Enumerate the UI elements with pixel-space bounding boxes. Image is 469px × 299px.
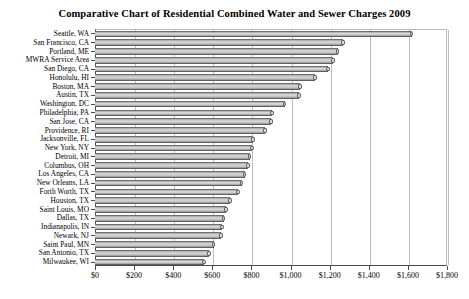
bar-row[interactable] [95,178,447,187]
bar-cap [269,119,272,124]
category-tick [91,262,95,263]
bar-cap [207,251,210,256]
bar-row[interactable] [95,213,447,222]
bar-row[interactable] [95,134,447,143]
bar-cap [410,32,413,37]
category-tick [91,235,95,236]
value-tick [447,266,448,270]
bar-row[interactable] [95,152,447,161]
bar-cap [202,260,205,265]
bar-cap [251,137,254,142]
bar-cap [220,225,223,230]
bar[interactable] [95,145,252,152]
bar[interactable] [95,224,222,231]
bar[interactable] [95,241,214,248]
bar-row[interactable] [95,64,447,73]
bar-row[interactable] [95,99,447,108]
bar[interactable] [95,39,343,46]
bar-row[interactable] [95,240,447,249]
category-tick [91,244,95,245]
bar[interactable] [95,180,242,187]
value-tick-label: $1,800 [436,271,458,280]
category-axis-labels: Seattle, WASan Francisco, CAPortland, ME… [0,29,92,266]
category-tick [91,218,95,219]
bar-cap [212,242,215,247]
category-tick [91,42,95,43]
bar-row[interactable] [95,143,447,152]
bar-row[interactable] [95,90,447,99]
category-tick [91,104,95,105]
bar-row[interactable] [95,82,447,91]
bar[interactable] [95,162,248,169]
bar[interactable] [95,66,328,73]
bar[interactable] [95,153,250,160]
bar[interactable] [95,74,315,81]
bar[interactable] [95,206,226,213]
bar-row[interactable] [95,55,447,64]
bar[interactable] [95,250,209,257]
bar-row[interactable] [95,257,447,266]
category-tick [91,183,95,184]
bar[interactable] [95,31,412,38]
bar[interactable] [95,110,272,117]
bar-row[interactable] [95,117,447,126]
bar-cap [336,49,339,54]
bar[interactable] [95,127,265,134]
bar[interactable] [95,83,300,90]
value-tick [369,266,370,270]
bar[interactable] [95,215,224,222]
category-label: Milwaukee, WI [0,257,89,267]
category-tick [91,130,95,131]
category-tick [91,148,95,149]
bar-row[interactable] [95,73,447,82]
bar-row[interactable] [95,187,447,196]
bar[interactable] [95,48,338,55]
bar[interactable] [95,118,271,125]
bar-row[interactable] [95,38,447,47]
value-tick-label: $1,000 [280,271,302,280]
bar-row[interactable] [95,196,447,205]
bar-row[interactable] [95,205,447,214]
bar-row[interactable] [95,47,447,56]
category-tick [91,191,95,192]
bar[interactable] [95,57,333,64]
value-tick-label: $800 [243,271,259,280]
value-tick [291,266,292,270]
value-tick-label: $1,200 [319,271,341,280]
gridline [448,30,449,265]
bar-cap [228,198,231,203]
category-tick [91,165,95,166]
bar-cap [263,128,266,133]
bar-row[interactable] [95,126,447,135]
bar-row[interactable] [95,222,447,231]
value-tick [173,266,174,270]
value-tick [95,266,96,270]
bar[interactable] [95,232,221,239]
bar-row[interactable] [95,161,447,170]
category-tick [91,174,95,175]
bar[interactable] [95,136,253,143]
bar-row[interactable] [95,108,447,117]
bar-cap [219,233,222,238]
bar[interactable] [95,92,299,99]
bar-row[interactable] [95,169,447,178]
bar[interactable] [95,259,204,266]
bar[interactable] [95,101,285,108]
category-tick [91,121,95,122]
bar-cap [270,111,273,116]
bar[interactable] [95,171,245,178]
value-tick [408,266,409,270]
value-tick-label: $0 [91,271,99,280]
bar-cap [297,93,300,98]
bar-cap [248,154,251,159]
bar-row[interactable] [95,29,447,38]
bar[interactable] [95,197,230,204]
bar-cap [222,216,225,221]
bar-row[interactable] [95,248,447,257]
category-tick [91,60,95,61]
value-tick-label: $1,400 [358,271,380,280]
bar-cap [313,75,316,80]
bar-row[interactable] [95,231,447,240]
value-axis-labels: $0$200$400$600$800$1,000$1,200$1,400$1,6… [0,271,469,287]
bar[interactable] [95,189,238,196]
